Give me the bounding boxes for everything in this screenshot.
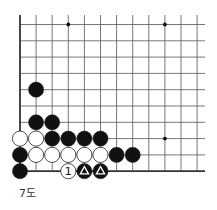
move-number-label: 1 [65,165,72,178]
white-stone [77,147,92,162]
black-stone [109,147,124,162]
board-grid [20,15,205,171]
white-stone [61,147,76,162]
diagram-caption: 7도 [19,184,36,200]
black-stone [12,164,27,179]
star-point [163,137,167,141]
white-stone [28,131,43,146]
black-stone [45,115,60,130]
black-stone [12,147,27,162]
black-stone [61,131,76,146]
white-stone [45,147,60,162]
black-stone [45,131,60,146]
star-point [163,23,167,27]
black-stone [125,147,140,162]
white-stone [12,131,27,146]
white-stone [93,147,108,162]
white-stone [28,147,43,162]
white-stone: 1 [61,164,76,179]
black-stone [77,131,92,146]
star-point [66,23,70,27]
black-stone [93,131,108,146]
go-board-diagram: 1 [0,0,217,210]
stones-layer: 1 [12,82,140,179]
black-stone [28,82,43,97]
black-stone [93,164,108,179]
black-stone [77,164,92,179]
black-stone [28,115,43,130]
